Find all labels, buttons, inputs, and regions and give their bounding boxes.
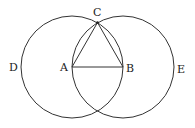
point-c-dot — [96, 21, 99, 24]
segment-ac — [72, 23, 98, 68]
label-e: E — [177, 63, 185, 76]
segment-bc — [98, 23, 124, 68]
euclid-diagram: C A B D E — [0, 0, 195, 128]
label-d: D — [9, 61, 18, 74]
label-a: A — [59, 61, 69, 74]
label-c: C — [93, 6, 101, 19]
label-b: B — [126, 62, 134, 75]
